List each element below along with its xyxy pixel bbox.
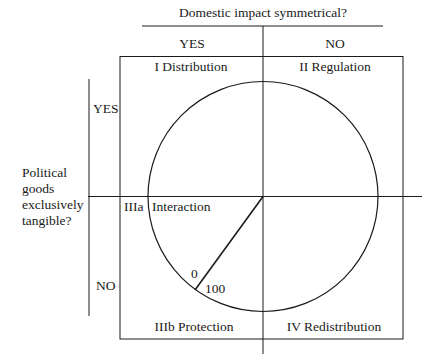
quadrant-label-interaction: Interaction [152,199,210,214]
quadrant-label-protection: IIIb Protection [154,319,233,334]
left-axis-question-line-1: Political [22,165,67,180]
quadrant-label-regulation: II Regulation [299,59,371,74]
top-axis-question: Domestic impact symmetrical? [179,5,347,20]
left-axis-question-line-2: goods [22,181,54,196]
typology-diagram [0,0,440,363]
quadrant-label-redistribution: IV Redistribution [287,319,382,334]
quadrant-label-distribution: I Distribution [154,59,227,74]
left-axis-question-line-4: tangible? [22,213,71,228]
dial-label-100: 100 [205,281,225,296]
left-axis-question-line-3: exclusively [22,197,83,212]
top-axis-yes: YES [179,36,205,51]
quadrant-tag-iiia: IIIa [124,199,143,214]
top-axis-no: NO [325,36,345,51]
dial-label-0: 0 [191,266,198,281]
left-axis-no: NO [96,278,116,293]
left-axis-yes: YES [93,101,119,116]
